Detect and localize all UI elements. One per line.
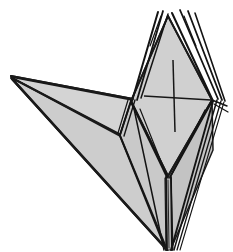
figure-root: Folded paper model Line drawing of a fol… bbox=[0, 0, 233, 252]
origami-figure-svg: Folded paper model Line drawing of a fol… bbox=[0, 0, 233, 252]
tail-spine-left bbox=[166, 177, 167, 250]
tail-spine-right bbox=[171, 177, 172, 250]
